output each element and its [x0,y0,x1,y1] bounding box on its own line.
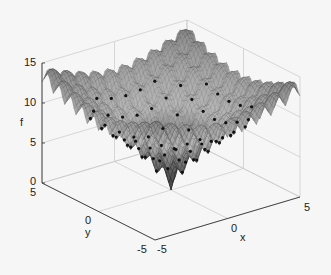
local-minimum-marker [178,158,181,161]
local-minimum-marker [186,142,189,145]
local-minimum-marker [100,127,103,130]
local-minimum-marker [111,134,114,137]
z-axis-label: f [20,116,24,128]
mesh-surface [42,29,300,190]
local-minimum-marker [239,104,242,107]
local-minimum-marker [115,136,118,139]
local-minimum-marker [218,141,221,144]
local-minimum-marker [166,167,169,170]
local-minimum-marker [181,171,184,174]
local-minimum-marker [236,121,239,124]
local-minimum-marker [221,136,224,139]
local-minimum-marker [165,96,168,99]
local-minimum-marker [200,142,203,145]
local-minimum-marker [136,114,139,117]
local-minimum-marker [229,134,232,137]
local-minimum-marker [179,84,182,87]
local-minimum-marker [163,153,166,156]
local-minimum-marker [213,118,216,121]
local-minimum-marker [95,97,98,100]
z-tick-15: 15 [24,56,36,68]
local-minimum-marker [140,155,143,158]
local-minimum-marker [210,140,213,143]
local-minimum-marker [198,138,201,141]
local-minimum-marker [207,150,210,153]
x-axis-line [155,197,300,240]
local-minimum-marker [161,127,164,130]
local-minimum-marker [126,144,129,147]
local-minimum-marker [192,158,195,161]
local-minimum-marker [92,110,95,113]
local-minimum-marker [118,131,121,134]
local-minimum-marker [155,169,158,172]
local-minimum-marker [121,116,124,119]
x-axis-label: x [240,231,246,243]
local-minimum-marker [184,161,187,164]
figure: 15 10 5 0 5 0 -5 -5 0 5 f y x [0,0,331,275]
local-minimum-marker [202,110,205,113]
local-minimum-marker [224,121,227,124]
local-minimum-marker [205,82,208,85]
z-tick-5: 5 [30,136,36,148]
y-tick-neg5: -5 [137,243,147,255]
local-minimum-marker [103,124,106,127]
z-tick-10: 10 [24,96,36,108]
y-tick-0: 0 [85,214,91,226]
local-minimum-marker [190,98,193,101]
local-minimum-marker [160,144,163,147]
local-minimum-marker [137,147,140,150]
local-minimum-marker [124,94,127,97]
local-minimum-marker [216,92,219,95]
local-minimum-marker [153,80,156,83]
local-minimum-marker [150,107,153,110]
y-axis-label: y [85,226,91,238]
x-tick-neg5: -5 [157,243,167,255]
local-minimum-marker [147,135,150,138]
local-minimum-marker [107,114,110,117]
x-tick-5: 5 [304,201,310,213]
local-minimum-marker [123,138,126,141]
local-minimum-marker [152,157,155,160]
y-tick-5: 5 [30,186,36,198]
local-minimum-marker [227,100,230,103]
local-minimum-marker [139,88,142,91]
local-minimum-marker [129,146,132,149]
local-minimum-marker [232,131,235,134]
local-minimum-marker [187,128,190,131]
local-minimum-marker [134,140,137,143]
local-minimum-marker [250,105,253,108]
local-minimum-marker [173,147,176,150]
local-minimum-marker [247,118,250,121]
local-minimum-marker [189,150,192,153]
local-minimum-marker [144,156,147,159]
surface-plot-3d: 15 10 5 0 5 0 -5 -5 0 5 f y x [0,0,331,275]
local-minimum-marker [195,158,198,161]
local-minimum-marker [132,136,135,139]
x-tick-0: 0 [231,222,237,234]
y-axis-line [42,183,155,240]
local-minimum-marker [244,125,247,128]
local-minimum-marker [149,146,152,149]
local-minimum-marker [110,97,113,100]
local-minimum-marker [176,113,179,116]
local-minimum-marker [215,140,218,143]
local-minimum-marker [158,159,161,162]
local-minimum-marker [89,117,92,120]
local-minimum-marker [203,148,206,151]
